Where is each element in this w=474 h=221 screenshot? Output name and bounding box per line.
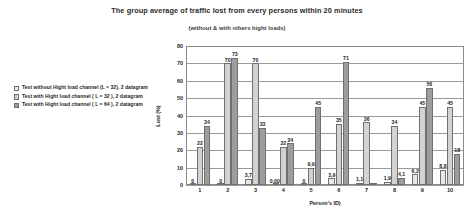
bar[interactable] — [370, 183, 377, 185]
bar-value-label: 73 — [232, 52, 238, 57]
bar[interactable] — [315, 107, 322, 185]
bar-slot: 0 — [301, 46, 308, 185]
bar[interactable] — [384, 182, 391, 185]
bar-slot: 0 — [217, 46, 224, 185]
x-axis-tick: 6 — [325, 187, 353, 193]
y-axis-tick: 70 — [177, 60, 183, 66]
bar-value-label: 45 — [419, 101, 425, 106]
bar[interactable] — [231, 58, 238, 185]
bar[interactable] — [412, 174, 419, 185]
x-axis-tick: 4 — [269, 187, 297, 193]
bar[interactable] — [343, 62, 350, 185]
bar-value-label: 9,9 — [307, 162, 314, 167]
x-axis-tick: 3 — [242, 187, 270, 193]
bar-slot: 4,1 — [398, 46, 405, 185]
bar-value-label: 4,1 — [398, 172, 405, 177]
bar-slot: 24 — [287, 46, 294, 185]
bar[interactable] — [308, 168, 315, 185]
bar-value-label: 35 — [336, 118, 342, 123]
bar-group: 02234 — [186, 46, 214, 185]
bar[interactable] — [245, 179, 252, 185]
y-axis-tick: 50 — [177, 95, 183, 101]
bar-slot: 1,1 — [356, 46, 363, 185]
bar[interactable] — [447, 107, 454, 185]
bar-slot: 56 — [426, 46, 433, 185]
chart-title: The group average of traffic lost from e… — [0, 6, 474, 15]
bar-value-label: 6,2 — [412, 169, 419, 174]
bar-slot: 34 — [204, 46, 211, 185]
bar[interactable] — [454, 154, 461, 185]
legend-swatch-icon — [14, 94, 19, 99]
bar[interactable] — [363, 122, 370, 185]
bar-slot: 8,8 — [440, 46, 447, 185]
chart-subtitle: (without & with others hight loads) — [0, 25, 474, 31]
bar[interactable] — [336, 124, 343, 185]
bar-slot: 70 — [224, 46, 231, 185]
legend-item-1: Test with Hight load channel ( L = 32 ),… — [14, 93, 154, 100]
bar-value-label: 0 — [219, 179, 222, 184]
chart-header: The group average of traffic lost from e… — [0, 6, 474, 31]
bar-value-label: 34 — [392, 120, 398, 125]
bar-slot: 22 — [197, 46, 204, 185]
y-axis-label: Lost (%) — [155, 105, 161, 126]
bar-slot: 0 — [190, 46, 197, 185]
bar-slot: 18 — [454, 46, 461, 185]
legend-swatch-icon — [14, 103, 19, 108]
bar[interactable] — [259, 128, 266, 185]
x-axis-tick: 5 — [297, 187, 325, 193]
bar[interactable] — [419, 107, 426, 185]
x-axis-tick: 10 — [436, 187, 464, 193]
bar[interactable] — [391, 126, 398, 185]
bar-slot: 34 — [391, 46, 398, 185]
bar-value-label: 34 — [204, 120, 210, 125]
bar-group: 3,93571 — [325, 46, 353, 185]
bar[interactable] — [356, 183, 363, 185]
bar-slot: 36 — [363, 46, 370, 185]
bar[interactable] — [328, 178, 335, 185]
bar-slot: 9,9 — [308, 46, 315, 185]
bar-value-label: 3,7 — [245, 173, 252, 178]
bar[interactable] — [440, 170, 447, 185]
bar[interactable] — [398, 178, 405, 185]
legend-label: Test with Hight load channel ( L = 64 ),… — [22, 101, 143, 108]
bar[interactable] — [197, 147, 204, 185]
bar-value-label: 8,8 — [439, 164, 446, 169]
bar[interactable] — [204, 126, 211, 185]
bar-value-label: 33 — [260, 122, 266, 127]
gridline — [186, 185, 464, 186]
bar-slot: 0,001 — [273, 46, 280, 185]
y-axis-tick: 40 — [177, 113, 183, 119]
bar[interactable] — [280, 147, 287, 185]
y-axis-tick: 0 — [180, 182, 183, 188]
x-axis-label: Person's ID) — [186, 200, 464, 206]
bar-slot: 45 — [315, 46, 322, 185]
y-axis-tick: 30 — [177, 130, 183, 136]
y-axis-tick: 80 — [177, 43, 183, 49]
bar[interactable] — [224, 63, 231, 185]
bar-value-label: 24 — [287, 138, 293, 143]
bar-group: 8,84518 — [436, 46, 464, 185]
bar-value-label: 36 — [364, 117, 370, 122]
x-axis-tick: 7 — [353, 187, 381, 193]
bar-value-label: 22 — [197, 141, 203, 146]
bar-value-label: 70 — [253, 58, 259, 63]
bar-value-label: 22 — [280, 141, 286, 146]
bar-value-label: 45 — [447, 101, 453, 106]
bar[interactable] — [252, 63, 259, 185]
bar-value-label: 18 — [454, 148, 460, 153]
bar[interactable] — [426, 88, 433, 185]
bar-group: 09,945 — [297, 46, 325, 185]
x-axis-tick: 8 — [381, 187, 409, 193]
bar-group: 3,77033 — [242, 46, 270, 185]
bar-slot — [370, 46, 377, 185]
bar-slot: 3,7 — [245, 46, 252, 185]
x-axis-tick: 2 — [214, 187, 242, 193]
chart-legend: Test without Hight load channel (L = 32)… — [14, 84, 154, 110]
plot-area: 01020304050607080 Lost (%) 02234070733,7… — [186, 46, 464, 185]
bar-slot: 1,9 — [384, 46, 391, 185]
bar[interactable] — [287, 143, 294, 185]
bar-slot: 3,9 — [328, 46, 335, 185]
bar-slot: 45 — [419, 46, 426, 185]
bar-value-label: 71 — [343, 56, 349, 61]
bar-value-label: 1,1 — [356, 177, 363, 182]
